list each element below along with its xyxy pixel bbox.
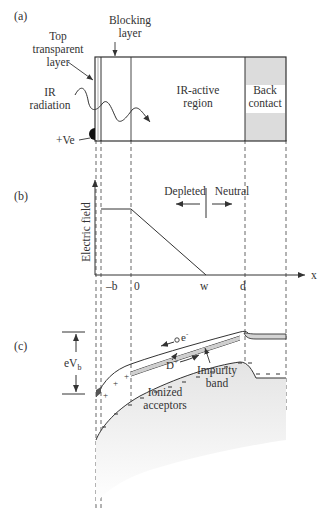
back-contact-label: Back (253, 84, 277, 96)
top-layer-arrow (68, 62, 93, 80)
tick-minus-b: –b (105, 280, 118, 292)
svg-text:region: region (183, 97, 213, 110)
plus-mark: + (103, 390, 108, 400)
ionized-acceptors-label: Ionized (148, 386, 183, 398)
ir-radiation-label: IR (44, 86, 56, 98)
plus-mark: + (113, 378, 118, 388)
panel-c: (c) eVb + + + (14, 330, 286, 505)
svg-text:layer: layer (47, 56, 70, 69)
panel-b-label: (b) (14, 189, 28, 203)
svg-text:layer: layer (119, 27, 142, 40)
electron-icon (175, 338, 179, 342)
ir-active-region-label: IR-active (177, 84, 220, 96)
back-contact-band (244, 333, 286, 339)
panel-a-label: (a) (14, 9, 27, 23)
panel-c-label: (c) (14, 339, 27, 353)
svg-text:radiation: radiation (30, 99, 71, 111)
blocking-layer-label: Blocking (109, 14, 151, 27)
neutral-label: Neutral (215, 185, 249, 197)
top-transparent-layer-label: Top (49, 30, 67, 43)
x-axis-label: x (311, 269, 317, 281)
electron-label: e- (181, 330, 189, 343)
bib-detector-diagram: (a) Blocking layer Top transparent layer… (0, 0, 331, 514)
svg-text:band: band (206, 377, 229, 389)
svg-text:transparent: transparent (32, 43, 84, 56)
barrier-height-label: eVb (64, 357, 81, 372)
tick-d: d (240, 280, 246, 292)
interface-wedge (96, 387, 101, 397)
depleted-label: Depleted (164, 185, 206, 198)
svg-text:acceptors: acceptors (143, 399, 187, 412)
impurity-band-label: Impurity (197, 364, 237, 377)
svg-text:contact: contact (248, 97, 282, 109)
y-axis-label: Electric field (80, 202, 92, 262)
panel-b: (b) x Electric field Depleted Neutral –b… (14, 180, 317, 292)
ir-wave-arrow (75, 88, 150, 122)
voltage-label: +Ve (56, 134, 75, 146)
tick-w: w (200, 280, 209, 292)
valence-shading (96, 362, 286, 505)
plus-mark: + (124, 371, 129, 381)
electric-field-line (101, 209, 206, 275)
tick-zero: 0 (134, 280, 140, 292)
panel-a: (a) Blocking layer Top transparent layer… (14, 9, 286, 146)
